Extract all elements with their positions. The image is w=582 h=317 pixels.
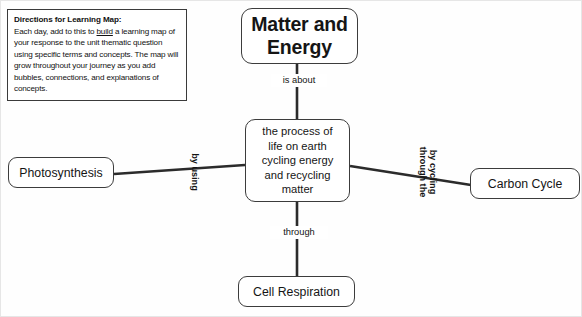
node-photosynthesis[interactable]: Photosynthesis bbox=[8, 157, 114, 188]
edge-label-by-using: by using bbox=[170, 151, 200, 193]
node-central-process-label: the process of life on earth cycling ene… bbox=[246, 124, 349, 197]
node-carbon-cycle-label: Carbon Cycle bbox=[471, 177, 579, 191]
node-cell-respiration[interactable]: Cell Respiration bbox=[238, 276, 355, 307]
edge-label-by-cycling-through-the: by cycling through the bbox=[402, 143, 438, 201]
edge-label-by-using-line: by using bbox=[190, 151, 200, 193]
directions-underlined-word: build bbox=[97, 27, 113, 36]
node-matter-and-energy[interactable]: Matter and Energy bbox=[241, 8, 358, 64]
edge-label-by-cycling-line-1: by cycling bbox=[428, 143, 438, 201]
node-carbon-cycle[interactable]: Carbon Cycle bbox=[470, 168, 580, 199]
directions-panel: Directions for Learning Map: Each day, a… bbox=[7, 9, 187, 101]
node-cell-respiration-label: Cell Respiration bbox=[239, 285, 354, 299]
directions-body-part-2: a learning map of your response to the u… bbox=[14, 27, 178, 94]
edge-label-by-cycling-line-2: through the bbox=[417, 143, 427, 201]
node-central-process[interactable]: the process of life on earth cycling ene… bbox=[245, 119, 350, 202]
directions-title: Directions for Learning Map: bbox=[14, 14, 180, 26]
edge-label-is-about: is about bbox=[271, 74, 327, 87]
edge-label-through: through bbox=[270, 226, 328, 239]
directions-body: Each day, add to this to build a learnin… bbox=[14, 26, 180, 95]
directions-body-part-1: Each day, add to this to bbox=[14, 27, 97, 36]
learning-map-canvas: Directions for Learning Map: Each day, a… bbox=[0, 0, 582, 317]
node-photosynthesis-label: Photosynthesis bbox=[9, 166, 113, 180]
node-matter-and-energy-label: Matter and Energy bbox=[242, 13, 357, 59]
